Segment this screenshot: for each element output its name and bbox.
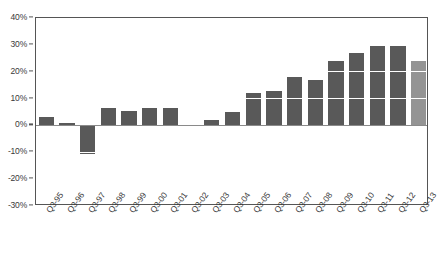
y-axis-tick-mark bbox=[29, 204, 33, 205]
bar bbox=[204, 120, 219, 125]
bar bbox=[80, 125, 95, 153]
y-axis-tick-label: -30% bbox=[8, 200, 27, 210]
y-axis-tick-mark bbox=[29, 124, 33, 125]
bar bbox=[411, 61, 426, 125]
y-axis-tick-label: -10% bbox=[8, 146, 27, 156]
y-axis-tick-label: 0% bbox=[15, 119, 27, 129]
bar bbox=[142, 108, 157, 125]
bar-chart: 40%30%20%10%0%-10%-20%-30% Q3-95Q3-96Q3-… bbox=[0, 0, 447, 261]
bar bbox=[328, 61, 343, 125]
bar bbox=[39, 117, 54, 125]
y-axis-tick-mark bbox=[29, 178, 33, 179]
y-axis-tick-label: 20% bbox=[11, 66, 27, 76]
y-axis-tick-label: -20% bbox=[8, 173, 27, 183]
y-axis-tick-mark bbox=[29, 97, 33, 98]
y-axis-tick-label: 40% bbox=[11, 12, 27, 22]
bar bbox=[59, 123, 74, 126]
bar bbox=[163, 108, 178, 125]
plot-area bbox=[35, 17, 428, 205]
bar bbox=[349, 53, 364, 126]
y-axis-tick-mark bbox=[29, 151, 33, 152]
y-axis: 40%30%20%10%0%-10%-20%-30% bbox=[0, 17, 33, 205]
bars-layer bbox=[36, 18, 427, 204]
y-axis-tick-mark bbox=[29, 16, 33, 17]
bar bbox=[370, 45, 385, 126]
bar bbox=[101, 108, 116, 125]
bar bbox=[266, 91, 281, 126]
bar bbox=[390, 44, 405, 126]
bar bbox=[308, 80, 323, 126]
bar bbox=[246, 93, 261, 125]
bar bbox=[287, 77, 302, 125]
y-axis-tick-label: 10% bbox=[11, 93, 27, 103]
y-axis-tick-label: 30% bbox=[11, 39, 27, 49]
y-axis-tick-mark bbox=[29, 43, 33, 44]
bar bbox=[183, 125, 198, 126]
y-axis-tick-mark bbox=[29, 70, 33, 71]
x-axis: Q3-95Q3-96Q3-97Q3-98Q3-99Q3-00Q3-01Q3-02… bbox=[35, 205, 428, 261]
bar bbox=[225, 112, 240, 125]
bar bbox=[121, 111, 136, 126]
